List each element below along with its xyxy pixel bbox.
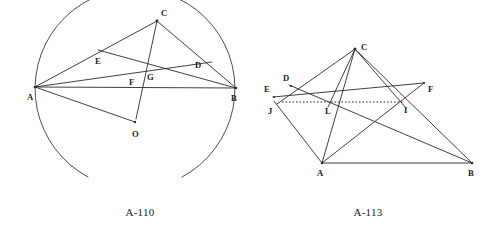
vertex-dot-a110-o — [134, 121, 136, 123]
point-label-a110-b: B — [231, 93, 237, 103]
segment-bc — [157, 21, 236, 88]
point-label-a113-l: L — [325, 106, 331, 116]
vertex-dot-a110-a — [34, 86, 37, 89]
point-label-a110-e: E — [95, 56, 101, 66]
point-label-a110-d: D — [195, 60, 201, 70]
segment-a113-c-to-i — [355, 49, 406, 108]
segment-ab — [35, 87, 236, 88]
figure-sheet: A B C D E F G O A-110 — [0, 0, 499, 235]
point-label-a113-j: J — [268, 106, 273, 116]
vertex-dot-a113-a — [321, 162, 324, 165]
vertex-dot-a113-e — [273, 96, 275, 98]
point-label-a110-c: C — [161, 8, 167, 18]
segment-a113-ef — [273, 83, 424, 97]
point-label-a113-d: D — [283, 73, 289, 83]
figure-caption-a113: A-113 — [353, 206, 382, 218]
figure-a110: A B C D E F G O A-110 — [27, 0, 237, 218]
point-label-a113-b: B — [468, 168, 474, 178]
vertex-dot-a110-c — [156, 20, 159, 23]
point-label-a113-a: A — [317, 168, 324, 178]
point-label-a110-o: O — [132, 129, 139, 139]
point-label-a113-e: E — [264, 84, 270, 94]
figure-caption-a110: A-110 — [125, 206, 154, 218]
vertex-dot-a113-d — [290, 85, 292, 87]
segment-a-to-o — [35, 87, 135, 122]
segment-a113-d-to-b — [289, 85, 472, 163]
point-label-a113-i: I — [404, 105, 408, 115]
figure-a113: A B C D E F I J L A-113 — [264, 42, 474, 218]
vertex-dot-a110-b — [235, 87, 238, 90]
vertex-dot-a113-c — [354, 48, 357, 51]
segment-a113-a-to-f — [322, 83, 424, 163]
segment-a113-c-to-l — [328, 49, 355, 107]
point-label-a110-g: G — [147, 72, 154, 82]
segment-a113-cb — [355, 49, 472, 163]
point-label-a110-a: A — [27, 92, 34, 102]
vertex-dot-a113-f — [423, 82, 425, 84]
point-label-a113-f: F — [428, 84, 433, 94]
point-label-a110-f: F — [129, 77, 134, 87]
segment-a113-j-to-a — [274, 101, 322, 163]
geometry-figures-svg: A B C D E F G O A-110 — [0, 0, 499, 235]
segment-b-to-e — [98, 50, 236, 88]
point-label-a113-c: C — [361, 42, 367, 52]
circumcircle-arc — [35, 0, 235, 177]
vertex-dot-a113-b — [471, 162, 474, 165]
